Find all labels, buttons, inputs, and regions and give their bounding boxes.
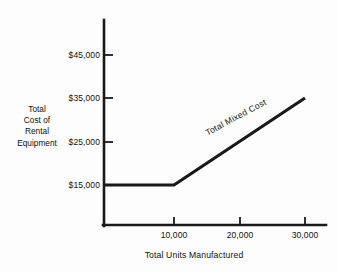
y-tick-label-15000: $15,000 <box>48 180 100 190</box>
y-axis-title-line-3: Rental <box>6 126 68 137</box>
series-line-total-mixed-cost <box>104 98 305 185</box>
y-tick-label-45000: $45,000 <box>48 50 100 60</box>
y-tick-label-25000: $25,000 <box>48 137 100 147</box>
x-tick-label-10000: 10,000 <box>151 230 197 240</box>
y-axis-title-line-2: Cost of <box>6 115 68 126</box>
x-tick-label-30000: 30,000 <box>282 230 328 240</box>
y-axis-title-line-1: Total <box>6 104 68 115</box>
chart-container: Total Cost of Rental Equipment $45,000 $… <box>0 0 338 272</box>
x-tick-label-20000: 20,000 <box>217 230 263 240</box>
y-tick-label-35000: $35,000 <box>48 93 100 103</box>
x-axis-title: Total Units Manufactured <box>104 250 284 260</box>
